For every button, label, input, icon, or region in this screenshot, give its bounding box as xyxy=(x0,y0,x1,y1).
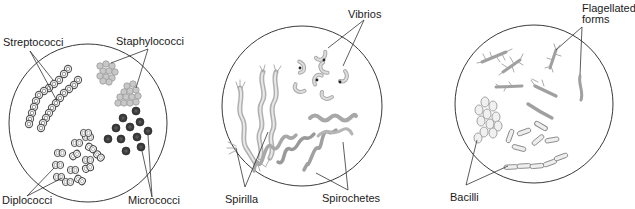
label-flagellated-line2: forms xyxy=(582,14,610,25)
label-diplococci: Diplococci xyxy=(2,195,52,206)
label-spirochetes: Spirochetes xyxy=(322,193,380,204)
label-streptococci: Streptococci xyxy=(3,37,64,48)
panel-cocci xyxy=(9,44,167,202)
label-vibrios: Vibrios xyxy=(348,9,381,20)
label-bacilli: Bacilli xyxy=(450,192,479,203)
panel-rods xyxy=(455,25,613,185)
field-circle xyxy=(222,26,382,186)
label-micrococci: Micrococci xyxy=(128,195,180,206)
label-staphylococci: Staphylococci xyxy=(116,36,184,47)
field-circle xyxy=(455,25,613,183)
panel-spiral xyxy=(222,20,382,190)
figure-illustration xyxy=(0,0,635,209)
bacteria-morphology-figure: Streptococci Staphylococci Diplococci Mi… xyxy=(0,0,635,209)
label-spirilla: Spirilla xyxy=(225,194,258,205)
